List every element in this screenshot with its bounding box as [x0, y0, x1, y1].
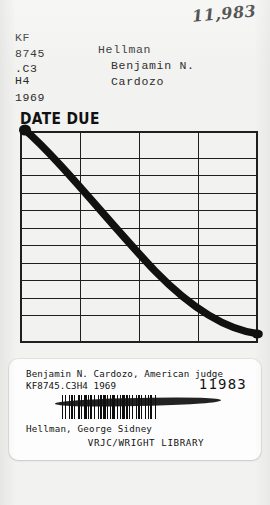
date-due-cell — [80, 316, 139, 342]
author-line-3: Cardozo — [98, 74, 195, 90]
date-due-table — [20, 131, 258, 343]
date-due-cell — [198, 281, 257, 299]
barcode-label: Benjamin N. Cardozo, American judge KF87… — [9, 359, 261, 460]
date-due-cell — [21, 298, 80, 316]
date-due-row — [21, 193, 257, 211]
library-date-due-card: 11,983 KF 8745 .C3 H4 1969 Hellman Benja… — [0, 0, 270, 505]
call-number-line-4: H4 — [15, 73, 45, 89]
call-number-line-2: 8745 — [15, 46, 45, 62]
date-due-cell — [21, 176, 80, 194]
date-due-cell — [139, 281, 198, 299]
date-due-row — [21, 263, 257, 281]
date-due-cell — [80, 211, 139, 229]
call-number-line-5: 1969 — [15, 90, 45, 106]
call-number: KF 8745 .C3 H4 1969 — [15, 30, 45, 106]
label-call-number: KF8745.C3H4 1969 — [26, 380, 116, 391]
date-due-row — [21, 211, 257, 229]
date-due-cell — [198, 176, 257, 194]
date-due-cell — [80, 246, 139, 264]
date-due-cell — [21, 211, 80, 229]
date-due-heading: DATE DUE — [20, 110, 100, 128]
date-due-cell — [139, 193, 198, 211]
author-line-2: Benjamin N. — [98, 58, 195, 74]
date-due-cell — [21, 193, 80, 211]
date-due-cell — [21, 158, 80, 176]
date-due-cell — [21, 132, 80, 158]
call-number-line-1: KF — [15, 30, 45, 46]
date-due-grid — [20, 131, 258, 343]
label-library-name: VRJC/WRIGHT LIBRARY — [9, 437, 261, 448]
date-due-cell — [198, 158, 257, 176]
date-due-cell — [21, 228, 80, 246]
date-due-row — [21, 281, 257, 299]
date-due-cell — [198, 246, 257, 264]
date-due-cell — [198, 132, 257, 158]
date-due-cell — [139, 176, 198, 194]
author-line-1: Hellman — [98, 42, 195, 58]
author-title-block: Hellman Benjamin N. Cardozo — [98, 42, 195, 90]
date-due-cell — [80, 158, 139, 176]
label-author: Hellman, George Sidney — [26, 423, 152, 434]
date-due-cell — [139, 246, 198, 264]
date-due-row — [21, 176, 257, 194]
date-due-cell — [198, 298, 257, 316]
date-due-cell — [80, 228, 139, 246]
date-due-cell — [139, 263, 198, 281]
date-due-row — [21, 228, 257, 246]
date-due-cell — [198, 193, 257, 211]
date-due-cell — [80, 193, 139, 211]
date-due-cell — [198, 263, 257, 281]
date-due-cell — [198, 211, 257, 229]
date-due-cell — [139, 298, 198, 316]
date-due-cell — [139, 158, 198, 176]
typed-header-block: KF 8745 .C3 H4 1969 Hellman Benjamin N. … — [0, 30, 270, 110]
date-due-cell — [80, 263, 139, 281]
date-due-cell — [198, 228, 257, 246]
label-item-number: 11983 — [199, 376, 247, 392]
label-title: Benjamin N. Cardozo, American judge — [26, 368, 223, 379]
date-due-cell — [80, 132, 139, 158]
date-due-row — [21, 316, 257, 342]
date-due-cell — [80, 298, 139, 316]
date-due-cell — [21, 263, 80, 281]
date-due-row — [21, 298, 257, 316]
date-due-cell — [139, 316, 198, 342]
date-due-cell — [139, 132, 198, 158]
date-due-row — [21, 158, 257, 176]
date-due-cell — [80, 281, 139, 299]
date-due-cell — [198, 316, 257, 342]
date-due-cell — [139, 211, 198, 229]
date-due-cell — [80, 176, 139, 194]
date-due-row — [21, 246, 257, 264]
date-due-cell — [139, 228, 198, 246]
date-due-row — [21, 132, 257, 158]
date-due-cell — [21, 281, 80, 299]
date-due-cell — [21, 246, 80, 264]
date-due-cell — [21, 316, 80, 342]
handwritten-accession-number: 11,983 — [191, 1, 257, 26]
